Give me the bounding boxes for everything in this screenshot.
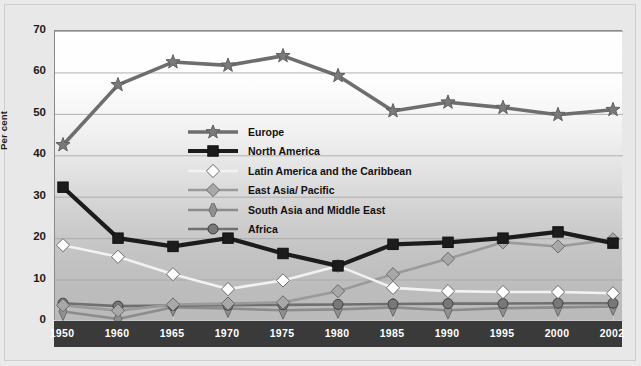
data-point: [608, 238, 618, 248]
legend-label: East Asia/ Pacific: [248, 184, 335, 196]
x-tick-label: 1965: [148, 327, 196, 339]
data-point: [331, 285, 344, 298]
data-point: [276, 274, 289, 287]
legend-marker-icon: [186, 164, 240, 178]
data-point: [441, 285, 454, 298]
legend-item-south-asia-and-middle-east[interactable]: South Asia and Middle East: [186, 200, 412, 220]
data-point: [113, 233, 123, 243]
data-point: [496, 100, 510, 113]
x-tick-label: 1990: [423, 327, 471, 339]
data-point: [278, 248, 288, 258]
legend-label: Latin America and the Caribbean: [248, 165, 412, 177]
legend-item-north-america[interactable]: North America: [186, 142, 412, 162]
data-point: [206, 125, 220, 138]
y-axis: Per cent 010203040506070: [0, 0, 54, 320]
y-tick-label: 30: [33, 190, 46, 201]
x-tick-label: 1985: [368, 327, 416, 339]
data-point: [441, 95, 455, 108]
data-point: [553, 227, 563, 237]
y-tick-label: 70: [33, 24, 46, 35]
legend-marker-icon: [186, 125, 240, 139]
y-tick-label: 0: [40, 314, 46, 325]
data-point: [388, 239, 398, 249]
data-point: [209, 203, 217, 217]
x-tick-label: 1950: [38, 327, 86, 339]
data-point: [551, 285, 564, 298]
data-point: [551, 107, 565, 120]
data-point: [166, 268, 179, 281]
data-point: [168, 241, 178, 251]
data-point: [56, 239, 69, 252]
legend-label: Europe: [248, 126, 284, 138]
data-point: [111, 250, 124, 263]
data-point: [606, 102, 620, 115]
legend-marker-icon: [186, 144, 240, 158]
legend-label: South Asia and Middle East: [248, 204, 385, 216]
y-tick-label: 40: [33, 148, 46, 159]
legend-item-latin-america-and-the-caribbean[interactable]: Latin America and the Caribbean: [186, 161, 412, 181]
y-tick-label: 60: [33, 65, 46, 76]
data-point: [208, 224, 218, 234]
legend-marker-icon: [186, 203, 240, 217]
data-point: [386, 104, 400, 117]
data-point: [208, 146, 218, 156]
data-point: [333, 299, 343, 309]
legend-item-africa[interactable]: Africa: [186, 220, 412, 240]
y-tick-label: 10: [33, 273, 46, 284]
data-point: [606, 287, 619, 300]
data-point: [498, 233, 508, 243]
x-tick-label: 1970: [203, 327, 251, 339]
data-point: [206, 164, 219, 177]
data-point: [333, 261, 343, 271]
data-point: [386, 268, 399, 281]
data-point: [221, 283, 234, 296]
x-tick-label: 2000: [533, 327, 581, 339]
y-tick-label: 20: [33, 231, 46, 242]
data-point: [58, 182, 68, 192]
x-tick-label: 1995: [478, 327, 526, 339]
data-point: [443, 237, 453, 247]
x-axis: 1950196019651970197519801985199019952000…: [54, 321, 622, 347]
data-point: [386, 281, 399, 294]
y-axis-title: Per cent: [0, 60, 9, 150]
data-point: [551, 240, 564, 253]
y-tick-label: 50: [33, 107, 46, 118]
data-point: [498, 299, 508, 309]
x-tick-label: 1975: [258, 327, 306, 339]
data-point: [443, 299, 453, 309]
chart-legend: EuropeNorth AmericaLatin America and the…: [186, 122, 412, 239]
x-tick-label: 2002: [588, 327, 636, 339]
data-point: [276, 48, 290, 61]
chart-figure: Per cent 010203040506070 195019601965197…: [0, 0, 641, 366]
data-point: [206, 184, 219, 197]
legend-marker-icon: [186, 183, 240, 197]
legend-label: Africa: [248, 223, 278, 235]
data-point: [221, 58, 235, 71]
data-point: [553, 298, 563, 308]
data-point: [441, 252, 454, 265]
data-point: [496, 285, 509, 298]
legend-item-europe[interactable]: Europe: [186, 122, 412, 142]
x-tick-label: 1980: [313, 327, 361, 339]
legend-marker-icon: [186, 222, 240, 236]
legend-label: North America: [248, 145, 320, 157]
x-tick-label: 1960: [93, 327, 141, 339]
data-point: [388, 299, 398, 309]
legend-item-east-asia-pacific[interactable]: East Asia/ Pacific: [186, 181, 412, 201]
